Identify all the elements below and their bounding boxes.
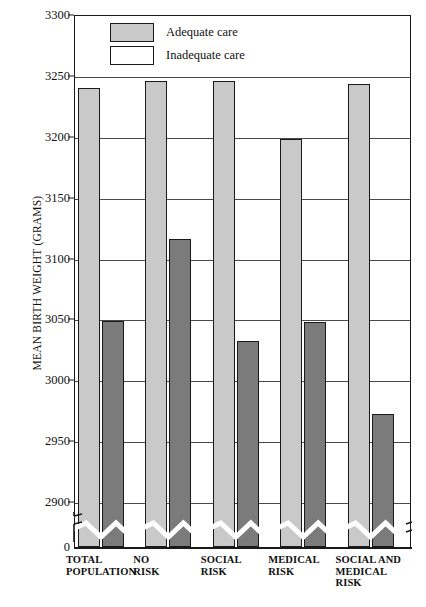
y-tick-label: 3050 xyxy=(24,312,70,327)
legend-label-adequate: Adequate care xyxy=(166,25,238,40)
legend-item-inadequate: Inadequate care xyxy=(110,46,245,65)
x-axis-category-label: SOCIAL RISK xyxy=(201,554,242,577)
bar xyxy=(304,322,326,547)
y-tick-mark xyxy=(68,258,74,259)
y-tick-label: 3150 xyxy=(24,190,70,205)
x-axis-category-label: SOCIAL AND MEDICAL RISK xyxy=(336,554,401,589)
bar xyxy=(213,81,235,547)
legend-label-inadequate: Inadequate care xyxy=(166,48,245,63)
y-tick-label: 3250 xyxy=(24,68,70,83)
y-tick-mark xyxy=(68,441,74,442)
bar xyxy=(372,414,394,547)
bar-chart: MEAN BIRTH WEIGHT (GRAMS) 33003250320031… xyxy=(0,0,426,607)
y-tick-label: 2900 xyxy=(24,495,70,510)
legend-swatch-adequate-icon xyxy=(110,23,154,42)
legend: Adequate care Inadequate care xyxy=(110,23,245,69)
gridline xyxy=(75,77,410,78)
y-tick-label: 2950 xyxy=(24,434,70,449)
y-tick-label: 3000 xyxy=(24,373,70,388)
y-axis-break-mark xyxy=(60,512,86,542)
legend-item-adequate: Adequate care xyxy=(110,23,245,42)
y-tick-label: 3300 xyxy=(24,8,70,23)
y-tick-mark xyxy=(68,75,74,76)
bar xyxy=(78,88,100,547)
bar xyxy=(280,139,302,547)
x-axis-category-label: TOTAL POPULATION xyxy=(66,554,136,577)
legend-swatch-inadequate-icon xyxy=(110,46,154,65)
x-axis-category-label: NO RISK xyxy=(133,554,159,577)
bar xyxy=(102,321,124,547)
x-axis-category-label: MEDICAL RISK xyxy=(268,554,319,577)
y-tick-mark xyxy=(68,502,74,503)
bar xyxy=(348,84,370,547)
y-tick-mark xyxy=(68,15,74,16)
bar xyxy=(237,341,259,547)
y-tick-mark xyxy=(68,197,74,198)
y-tick-label: 3200 xyxy=(24,129,70,144)
y-tick-label: 3100 xyxy=(24,251,70,266)
x-axis-line xyxy=(74,547,412,549)
y-tick-mark xyxy=(68,319,74,320)
y-tick-mark xyxy=(68,380,74,381)
bar xyxy=(145,81,167,547)
y-tick-mark xyxy=(68,136,74,137)
bar xyxy=(169,239,191,547)
